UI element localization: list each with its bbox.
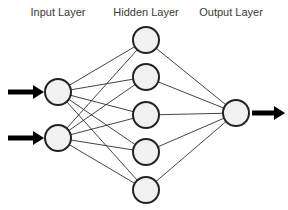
input-arrow-2-head xyxy=(33,131,44,145)
connection-edge xyxy=(158,118,224,147)
connection-edge xyxy=(69,99,136,144)
connection-edge xyxy=(69,145,135,184)
neuron-node-hidden-5 xyxy=(133,177,159,203)
connection-edge xyxy=(156,121,226,181)
layer-label-hidden: Hidden Layer xyxy=(113,6,179,18)
connection-edge xyxy=(159,113,223,114)
input-arrow-1-head xyxy=(33,85,44,99)
connection-edge xyxy=(156,48,226,105)
input-arrow-1 xyxy=(8,85,44,99)
neuron-node-input-2 xyxy=(45,125,71,151)
layer-label-input: Input Layer xyxy=(30,6,85,18)
neuron-node-input-1 xyxy=(45,79,71,105)
output-arrow-1 xyxy=(252,106,285,120)
connection-edge xyxy=(71,79,133,90)
connection-edge xyxy=(69,47,135,86)
connection-edge xyxy=(69,84,136,130)
neuron-node-hidden-1 xyxy=(133,27,159,53)
neuron-node-hidden-2 xyxy=(133,64,159,90)
layer-labels-group: Input Layer Hidden Layer Output Layer xyxy=(30,6,263,18)
input-arrow-2 xyxy=(8,131,44,145)
neuron-node-output-1 xyxy=(223,100,249,126)
neural-network-diagram: Input Layer Hidden Layer Output Layer xyxy=(0,0,288,210)
connection-edge xyxy=(71,118,134,134)
neuron-node-hidden-4 xyxy=(133,139,159,165)
connection-edge xyxy=(71,95,134,111)
neural-network-canvas: Input Layer Hidden Layer Output Layer xyxy=(0,0,288,210)
neuron-node-hidden-3 xyxy=(133,102,159,128)
layer-label-output: Output Layer xyxy=(199,6,263,18)
output-arrow-1-head xyxy=(274,106,285,120)
neuron-nodes-group xyxy=(45,27,249,203)
